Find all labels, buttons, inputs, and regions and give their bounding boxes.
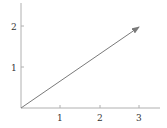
y-tick-label-1: 2 — [11, 22, 17, 32]
vector-arrow — [21, 27, 139, 108]
vector-chart: 2 1 1 2 3 — [0, 0, 167, 128]
y-tick-label-0: 1 — [11, 63, 17, 73]
x-tick-label-1: 2 — [97, 113, 103, 123]
x-tick-label-2: 3 — [136, 113, 142, 123]
x-tick-label-0: 1 — [57, 113, 63, 123]
